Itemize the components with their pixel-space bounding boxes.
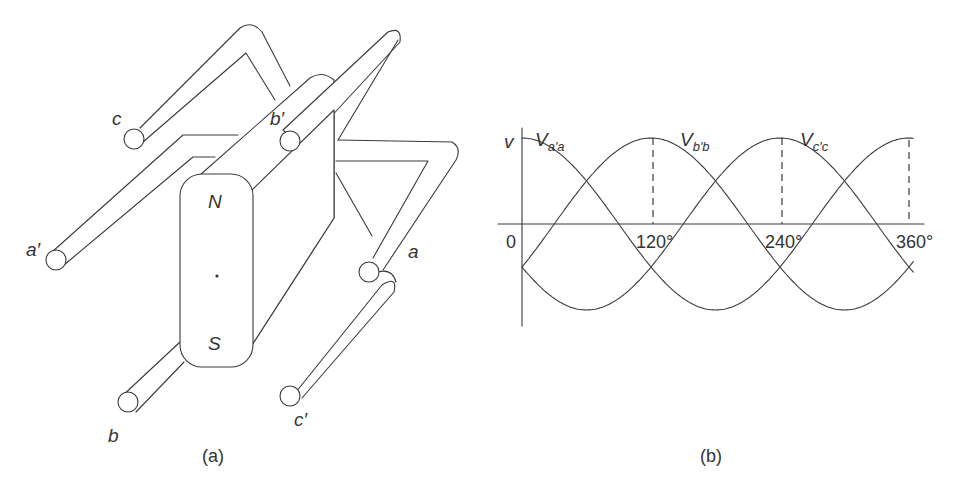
figure-b-waveform-chart: v 0 120° 240° 360° Va′a Vb′b Vc′c (b) — [498, 128, 933, 466]
magnet-south-label: S — [208, 333, 221, 354]
conductor-end-c-prime — [280, 386, 300, 406]
origin-label: 0 — [506, 232, 516, 252]
conductor-label-a-prime: a′ — [26, 239, 42, 260]
conductor-label-b-prime: b′ — [270, 108, 286, 129]
curve-label-v-a-prime-a: Va′a — [535, 129, 565, 154]
conductor-label-a: a — [408, 241, 419, 262]
conductor-end-b — [118, 392, 138, 412]
coil-c-prime-arm — [296, 271, 396, 398]
coil-a — [336, 140, 458, 270]
conductor-label-b: b — [108, 425, 119, 446]
rotation-axis-dot — [215, 274, 218, 277]
conductor-label-c-prime: c′ — [294, 409, 309, 430]
figure-canvas: N S c b′ a′ a b c′ (a) v 0 120° 240° 360… — [0, 0, 963, 481]
tick-label-120: 120° — [636, 232, 673, 252]
conductor-end-a-prime — [46, 250, 66, 270]
tick-label-240: 240° — [765, 232, 802, 252]
figure-b-caption: (b) — [700, 446, 722, 466]
conductor-end-c — [124, 129, 144, 149]
y-axis-label: v — [504, 131, 515, 152]
conductor-end-a — [359, 262, 379, 282]
figure-a-caption: (a) — [202, 446, 224, 466]
curve-label-v-c-prime-c: Vc′c — [800, 129, 829, 154]
conductor-label-c: c — [112, 108, 122, 129]
figure-a-generator-diagram: N S c b′ a′ a b c′ (a) — [26, 25, 458, 466]
conductor-end-b-prime — [280, 131, 300, 151]
magnet-north-label: N — [208, 191, 222, 212]
tick-label-360: 360° — [896, 232, 933, 252]
